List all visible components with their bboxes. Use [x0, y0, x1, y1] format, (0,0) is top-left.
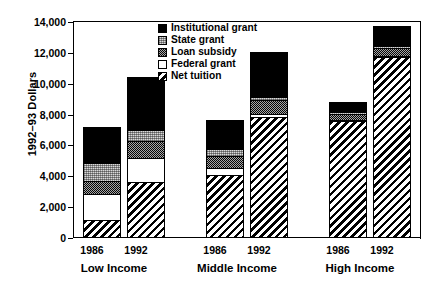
- legend-item-loan-subsidy[interactable]: Loan subsidy: [158, 47, 257, 58]
- bar-segment-loan-subsidy: [374, 49, 410, 57]
- bar-segment-loan-subsidy: [207, 157, 243, 169]
- legend-swatch-icon: [158, 48, 167, 57]
- legend-item-federal-grant[interactable]: Federal grant: [158, 59, 257, 70]
- bar-segment-institutional-grant: [330, 103, 366, 113]
- legend-swatch-icon: [158, 24, 167, 33]
- legend-swatch-icon: [158, 36, 167, 45]
- x-tick-label-low-1992: 1992: [106, 244, 166, 256]
- y-tick-label-12000: 12,000: [4, 48, 66, 58]
- bar-segment-state-grant: [207, 150, 243, 157]
- legend-item-label: State grant: [171, 35, 224, 45]
- bar-segment-institutional-grant: [128, 78, 164, 130]
- bar-segment-institutional-grant: [84, 128, 120, 163]
- legend-item-label: Federal grant: [171, 59, 236, 69]
- x-tick-label-high-1992: 1992: [352, 244, 412, 256]
- legend-item-label: Net tuition: [171, 71, 221, 81]
- bar-segment-federal-grant: [84, 195, 120, 221]
- bar-segment-net-tuition: [330, 122, 366, 238]
- bar-segment-loan-subsidy: [128, 142, 164, 160]
- y-tick-label-10000: 10,000: [4, 79, 66, 89]
- y-tick-label-14000: 14,000: [4, 17, 66, 27]
- chart-container: 1992–93 Dollars 0 2,000 4,000 6,000 8,00…: [0, 0, 432, 286]
- legend-item-label: Institutional grant: [171, 23, 257, 33]
- legend-item-state-grant[interactable]: State grant: [158, 35, 257, 46]
- y-tick-mark-0: [68, 238, 73, 239]
- bar-high-income-1986[interactable]: [329, 102, 367, 237]
- y-axis-ticks: 0 2,000 4,000 6,000 8,000 10,000 12,000 …: [0, 0, 66, 286]
- legend: Institutional grantState grantLoan subsi…: [158, 23, 257, 83]
- legend-item-label: Loan subsidy: [171, 47, 237, 57]
- y-tick-label-0: 0: [4, 233, 66, 243]
- x-tick-label-middle-1992: 1992: [229, 244, 289, 256]
- bar-segment-institutional-grant: [207, 121, 243, 150]
- y-tick-label-2000: 2,000: [4, 202, 66, 212]
- bar-middle-income-1986[interactable]: [206, 120, 244, 237]
- bar-segment-net-tuition: [374, 58, 410, 238]
- bar-low-income-1992[interactable]: [127, 77, 165, 237]
- y-tick-label-8000: 8,000: [4, 110, 66, 120]
- legend-item-net-tuition[interactable]: Net tuition: [158, 71, 257, 82]
- bar-segment-federal-grant: [128, 159, 164, 183]
- bar-segment-loan-subsidy: [84, 182, 120, 194]
- bar-segment-federal-grant: [207, 169, 243, 176]
- bar-segment-institutional-grant: [374, 27, 410, 47]
- y-tick-label-4000: 4,000: [4, 171, 66, 181]
- legend-swatch-icon: [158, 60, 167, 69]
- bar-segment-net-tuition: [84, 221, 120, 238]
- bar-segment-net-tuition: [251, 118, 287, 238]
- bar-segment-loan-subsidy: [251, 101, 287, 115]
- legend-swatch-icon: [158, 72, 167, 81]
- bar-segment-state-grant: [128, 131, 164, 142]
- bar-low-income-1986[interactable]: [83, 127, 121, 237]
- bar-segment-net-tuition: [128, 183, 164, 238]
- bar-high-income-1992[interactable]: [373, 26, 411, 237]
- y-tick-label-6000: 6,000: [4, 140, 66, 150]
- bar-segment-net-tuition: [207, 176, 243, 238]
- x-group-label-high-income: High Income: [280, 262, 432, 274]
- bar-segment-state-grant: [84, 164, 120, 183]
- legend-item-institutional-grant[interactable]: Institutional grant: [158, 23, 257, 34]
